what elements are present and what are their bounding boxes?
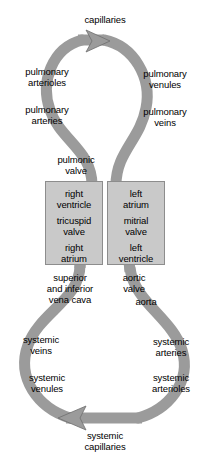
label-right-atrium: right atrium: [46, 242, 102, 264]
label-tricuspid-valve: tricuspid valve: [46, 215, 102, 237]
label-left-ventricle: left ventricle: [108, 242, 164, 264]
label-pulmonary-arteries: pulmonary arteries: [8, 104, 86, 126]
label-right-ventricle: right ventricle: [46, 188, 102, 210]
label-vena-cava: superior and inferior vena cava: [28, 272, 112, 305]
label-left-atrium: left atrium: [108, 188, 164, 210]
label-mitrial-valve: mitrial valve: [108, 215, 164, 237]
label-aorta: aorta: [122, 296, 170, 307]
label-systemic-arterioles: systemic arterioles: [132, 372, 210, 394]
label-pulmonary-veins: pulmonary veins: [126, 106, 204, 128]
label-systemic-arteries: systemic arteries: [134, 336, 208, 358]
label-systemic-venules: systemic venules: [8, 372, 86, 394]
left-heart-chamber-box: left atrium mitrial valve left ventricle: [107, 181, 165, 265]
label-pulmonary-capillaries: capillaries: [62, 14, 148, 25]
label-pulmonary-venules: pulmonary venules: [126, 68, 204, 90]
label-aortic-valve: aortic valve: [108, 272, 160, 294]
label-pulmonic-valve: pulmonic valve: [40, 154, 112, 176]
label-pulmonary-arterioles: pulmonary arterioles: [8, 66, 86, 88]
label-systemic-capillaries: systemic capillaries: [62, 430, 148, 452]
label-systemic-veins: systemic veins: [4, 334, 78, 356]
circulatory-flow-diagram: capillaries pulmonary arterioles pulmona…: [0, 0, 211, 457]
right-heart-chamber-box: right ventricle tricuspid valve right at…: [45, 181, 103, 265]
